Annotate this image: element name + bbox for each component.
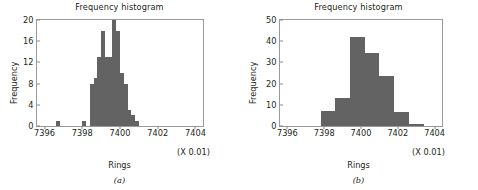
y-axis-label-a: Frequency (9, 62, 19, 104)
y-axis-tick-label: 4 (28, 100, 37, 110)
y-axis-tick-label: 40 (266, 36, 280, 46)
y-axis-tick-label: 50 (266, 15, 280, 25)
y-axis-tick-label: 20 (266, 79, 280, 89)
x-axis-tick-label: 7400 (110, 128, 131, 138)
histogram-bar (365, 53, 380, 126)
x-axis-tick-label: 7404 (185, 128, 206, 138)
scale-note-b: (X 0.01) (412, 147, 445, 157)
x-axis-tick-mark (361, 126, 362, 129)
histogram-bar (82, 121, 86, 126)
x-axis-label-a: Rings (0, 160, 239, 170)
x-axis-tick-mark (195, 126, 196, 129)
y-axis-tick-mark (280, 20, 283, 21)
y-axis-tick-mark (280, 41, 283, 42)
bars-group-a (37, 20, 203, 126)
y-axis-tick-label: 8 (28, 79, 37, 89)
chart-title-b: Frequency histogram (239, 2, 478, 12)
x-axis-tick-mark (324, 126, 325, 129)
y-axis-tick-mark (280, 104, 283, 105)
histogram-bar (409, 124, 424, 126)
y-axis-tick-mark (37, 126, 40, 127)
x-axis-tick-label: 7396 (277, 128, 298, 138)
y-axis-tick-mark (37, 104, 40, 105)
histogram-bar (394, 112, 409, 126)
histogram-bar (350, 37, 365, 126)
panel-caption-b: (b) (239, 175, 478, 185)
histogram-bar (56, 121, 60, 126)
plot-area-b: 01020304050 73967398740074027404 (279, 19, 443, 127)
histogram-panel-a: Frequency histogram Frequency 048121620 … (0, 0, 239, 190)
y-axis-tick-mark (37, 83, 40, 84)
y-axis-tick-label: 30 (266, 57, 280, 67)
x-axis-tick-mark (120, 126, 121, 129)
x-axis-tick-label: 7396 (34, 128, 55, 138)
chart-title-a: Frequency histogram (0, 2, 239, 12)
x-axis-tick-mark (434, 126, 435, 129)
histogram-bar (335, 98, 350, 126)
x-axis-label-b: Rings (239, 160, 478, 170)
histogram-bar (321, 111, 336, 126)
x-axis-tick-label: 7398 (72, 128, 93, 138)
y-axis-tick-label: 12 (23, 57, 37, 67)
histogram-bar (135, 121, 139, 126)
x-axis-tick-label: 7400 (351, 128, 372, 138)
y-axis-tick-label: 20 (23, 15, 37, 25)
y-axis-tick-mark (280, 83, 283, 84)
y-axis-tick-mark (37, 62, 40, 63)
y-axis-tick-label: 10 (266, 100, 280, 110)
y-axis-tick-mark (37, 20, 40, 21)
figure-container: Frequency histogram Frequency 048121620 … (0, 0, 478, 190)
x-axis-tick-mark (157, 126, 158, 129)
x-axis-tick-mark (82, 126, 83, 129)
scale-note-a: (X 0.01) (177, 147, 210, 157)
x-axis-tick-label: 7402 (147, 128, 168, 138)
y-axis-tick-mark (280, 62, 283, 63)
histogram-panel-b: Frequency histogram Frequency 0102030405… (239, 0, 478, 190)
x-axis-tick-label: 7398 (314, 128, 335, 138)
y-axis-tick-mark (37, 41, 40, 42)
y-axis-tick-mark (280, 126, 283, 127)
histogram-bar (379, 76, 394, 126)
y-axis-label-b: Frequency (248, 62, 258, 104)
x-axis-tick-mark (44, 126, 45, 129)
plot-area-a: 048121620 73967398740074027404 (36, 19, 204, 127)
x-axis-tick-label: 7402 (387, 128, 408, 138)
bars-group-b (280, 20, 442, 126)
x-axis-tick-mark (287, 126, 288, 129)
x-axis-tick-mark (397, 126, 398, 129)
x-axis-tick-label: 7404 (424, 128, 445, 138)
y-axis-tick-label: 16 (23, 36, 37, 46)
panel-caption-a: (a) (0, 175, 239, 185)
